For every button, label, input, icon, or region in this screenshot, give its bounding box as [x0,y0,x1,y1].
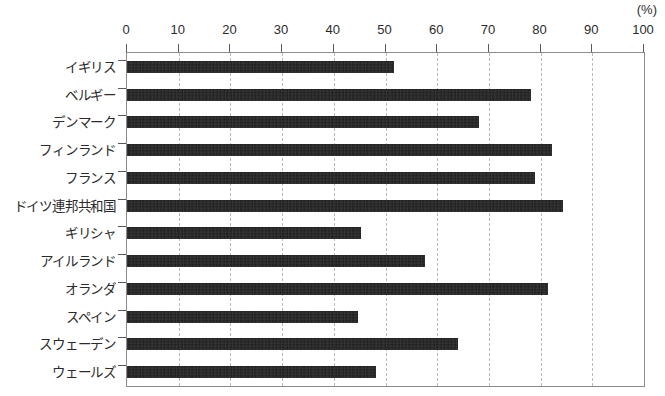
bar [127,200,563,212]
x-axis-tick-mark [281,44,282,52]
category-label: フランス [65,167,116,187]
x-axis-tick-label: 90 [584,22,598,37]
gridline [230,53,231,386]
x-axis-tick-label: 0 [122,22,129,37]
category-label: ギリシャ [65,222,116,242]
bar [127,311,358,323]
category-label: ウェールズ [52,361,116,381]
x-axis-tick-mark [333,44,334,52]
x-axis-tick-label: 20 [222,22,236,37]
gridline [437,53,438,386]
bar [127,338,458,350]
bar [127,227,361,239]
gridline [282,53,283,386]
x-axis-tick-label: 60 [429,22,443,37]
x-axis-tick-marks [0,44,665,52]
category-label: フィンランド [39,139,116,159]
gridline [489,53,490,386]
category-label: ベルギー [65,84,116,104]
x-axis-tick-mark [643,44,644,52]
gridline [179,53,180,386]
category-label: デンマーク [52,111,116,131]
x-axis-tick-mark [178,44,179,52]
x-axis-tick-label: 30 [274,22,288,37]
x-axis-tick-label: 80 [532,22,546,37]
x-axis-tick-mark [488,44,489,52]
plot-area [126,52,645,387]
x-axis-tick-mark [540,44,541,52]
x-axis-tick-label: 50 [377,22,391,37]
category-label: スウェーデン [39,333,116,353]
gridline [592,53,593,386]
bar [127,366,376,378]
x-axis-tick-label: 40 [326,22,340,37]
category-label: オランダ [65,278,116,298]
x-axis-tick-mark [436,44,437,52]
x-axis-tick-mark [591,44,592,52]
bar [127,61,394,73]
category-label: アイルランド [40,250,116,270]
x-axis-tick-labels: 0102030405060708090100 [0,22,665,40]
gridline [541,53,542,386]
gridline [386,53,387,386]
bar [127,172,535,184]
bar-chart: (%) 0102030405060708090100 イギリスベルギーデンマーク… [0,0,665,396]
x-axis-tick-label: 10 [170,22,184,37]
x-axis-tick-mark [126,44,127,52]
x-axis-tick-mark [229,44,230,52]
x-axis-tick-mark [385,44,386,52]
unit-label: (%) [637,2,657,17]
bar [127,116,479,128]
bar [127,89,531,101]
x-axis-tick-label: 70 [481,22,495,37]
category-axis-labels: イギリスベルギーデンマークフィンランドフランスドイツ連邦共和国ギリシャアイルラン… [0,52,122,385]
bar [127,255,425,267]
gridline [334,53,335,386]
category-label: ドイツ連邦共和国 [14,195,116,215]
category-label: スペイン [66,306,116,326]
x-axis-tick-label: 100 [632,22,654,37]
category-label: イギリス [65,56,116,76]
bar [127,144,552,156]
bar [127,283,548,295]
